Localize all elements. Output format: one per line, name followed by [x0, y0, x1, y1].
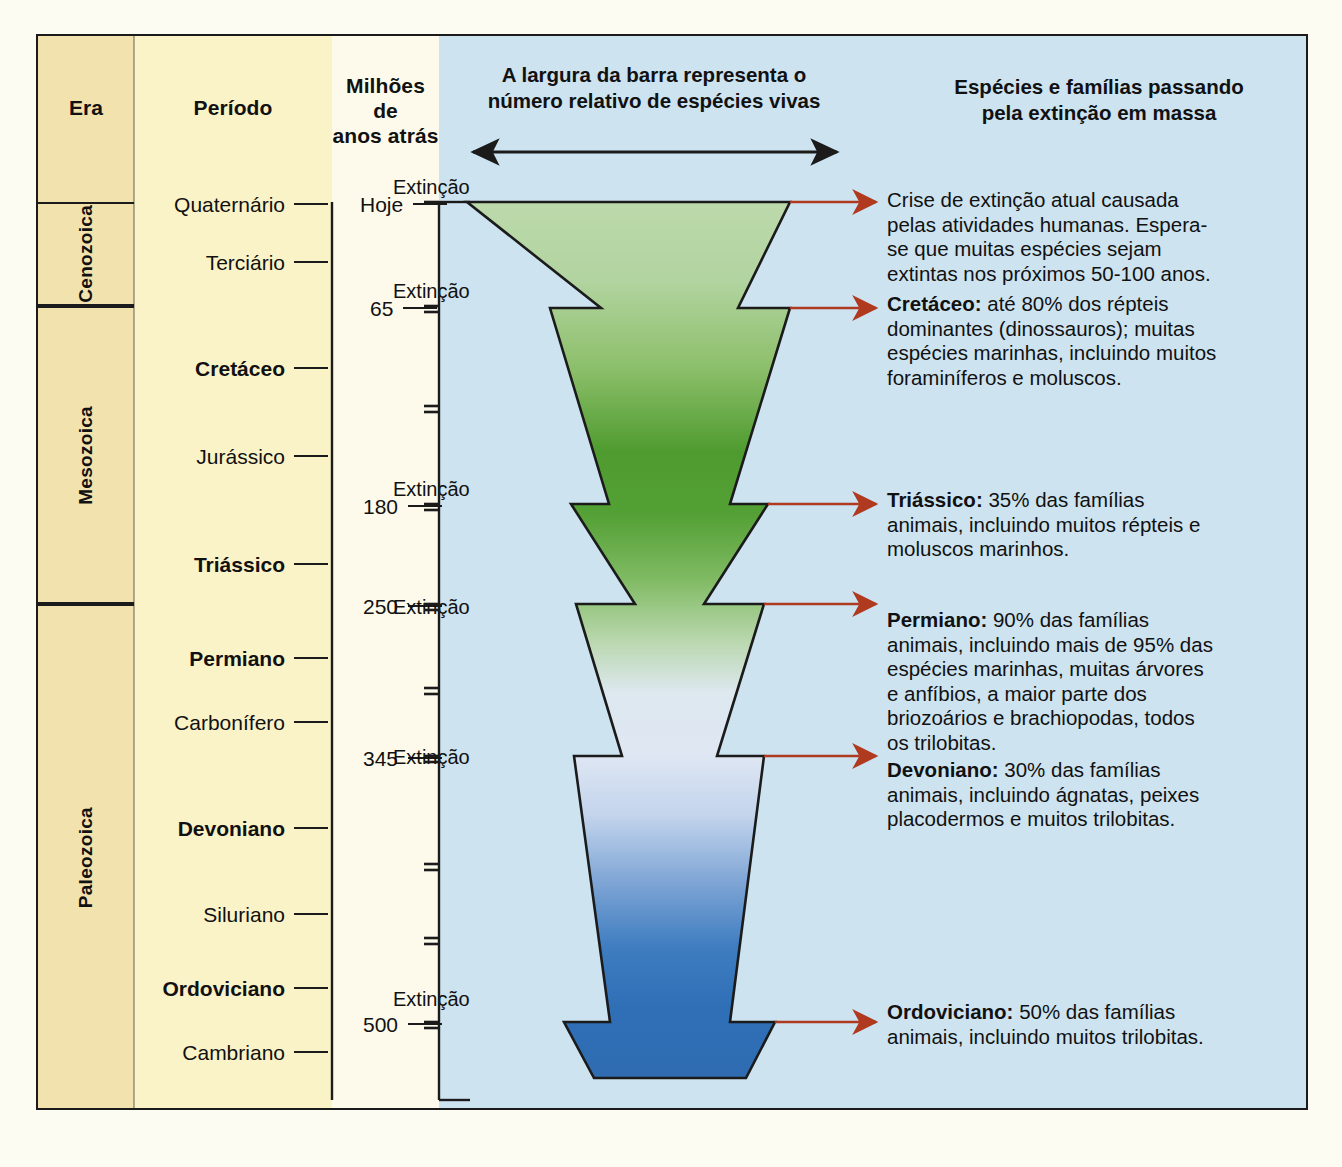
- chart-column-header: A largura da barra representa o número r…: [439, 62, 869, 113]
- annotation-triassico: Triássico: 35% das famílias animais, inc…: [887, 488, 1217, 562]
- extinction-label-triassico: Extinção: [393, 478, 470, 501]
- annotation-ordoviciano: Ordoviciano: 50% das famílias animais, i…: [887, 1000, 1217, 1049]
- period-label-permiano: Permiano: [189, 648, 328, 669]
- period-label-ordoviciano: Ordoviciano: [162, 978, 328, 999]
- mya-column-header: Milhões de anos atrás: [332, 74, 439, 148]
- extinction-label-cretaceo: Extinção: [393, 280, 470, 303]
- period-column-header: Período: [134, 96, 332, 121]
- annotation-quaternario: Crise de extinção atual causada pelas at…: [887, 188, 1217, 286]
- extinction-label-quaternario: Extinção: [393, 176, 470, 199]
- period-label-terciario: Terciário: [206, 252, 328, 273]
- mya-label-500: 500: [363, 1014, 442, 1035]
- era-block-mesozoica: Mesozoica: [38, 306, 134, 604]
- annotation-cretaceo: Cretáceo: até 80% dos répteis dominantes…: [887, 292, 1217, 390]
- period-label-siluriano: Siluriano: [203, 904, 328, 925]
- period-label-jurassico: Jurássico: [196, 446, 328, 467]
- era-block-cenozoica: Cenozoica: [38, 202, 134, 306]
- era-label: Cenozoica: [75, 205, 97, 303]
- period-label-triassico: Triássico: [194, 554, 328, 575]
- extinction-label-ordoviciano: Extinção: [393, 988, 470, 1011]
- annotation-permiano: Permiano: 90% das famílias animais, incl…: [887, 608, 1217, 756]
- extinction-label-permiano: Extinção: [393, 596, 470, 619]
- era-column-header: Era: [38, 96, 134, 121]
- extinction-column-header: Espécies e famílias passando pela extinç…: [889, 74, 1308, 125]
- period-label-quaternario: Quaternário: [174, 194, 328, 215]
- period-label-cretaceo: Cretáceo: [195, 358, 328, 379]
- era-label: Mesozoica: [75, 406, 97, 505]
- annotation-devoniano: Devoniano: 30% das famílias animais, inc…: [887, 758, 1217, 832]
- period-label-carbonifero: Carbonífero: [174, 712, 328, 733]
- geologic-timescale-figure: Era Período Milhões de anos atrás A larg…: [0, 0, 1342, 1167]
- diagram-frame: Era Período Milhões de anos atrás A larg…: [36, 34, 1308, 1110]
- period-label-devoniano: Devoniano: [178, 818, 328, 839]
- era-block-paleozoica: Paleozoica: [38, 604, 134, 1110]
- period-label-cambriano: Cambriano: [182, 1042, 328, 1063]
- extinction-label-devoniano: Extinção: [393, 746, 470, 769]
- era-label: Paleozoica: [75, 807, 97, 908]
